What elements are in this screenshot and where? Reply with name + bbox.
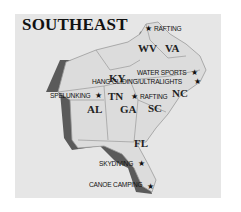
state-ga: GA [120,103,137,115]
state-wv: WV [138,42,157,54]
state-fl: FL [134,137,148,149]
state-sc: SC [148,102,162,114]
svg-text:CANOE CAMPING: CANOE CAMPING [89,181,143,188]
state-va: VA [165,42,180,54]
star-icon: ★ [191,68,198,77]
activity-rafting-sc: ★ RAFTING [131,92,168,101]
star-icon: ★ [131,92,138,101]
southeast-map: KY WV VA TN NC SC AL GA FL ★ RAFTING WAT… [0,0,241,212]
svg-text:WATER SPORTS: WATER SPORTS [137,69,187,76]
svg-text:RAFTING: RAFTING [154,25,182,32]
state-nc: NC [172,87,188,99]
star-icon: ★ [95,91,102,100]
svg-text:HANG GLIDING/ULTRALIGHTS: HANG GLIDING/ULTRALIGHTS [92,78,183,85]
activity-rafting-wv: ★ RAFTING [145,24,182,33]
svg-text:SPELUNKING: SPELUNKING [50,92,91,99]
state-tn: TN [108,90,123,102]
svg-text:RAFTING: RAFTING [140,93,168,100]
star-icon: ★ [138,159,145,168]
star-icon: ★ [194,77,201,86]
svg-text:SKYDIVING: SKYDIVING [99,160,133,167]
activity-spelunking: SPELUNKING ★ [50,91,102,100]
state-al: AL [87,103,102,115]
activity-skydiving: SKYDIVING ★ [99,159,145,168]
star-icon: ★ [145,24,152,33]
star-icon: ★ [147,182,154,191]
